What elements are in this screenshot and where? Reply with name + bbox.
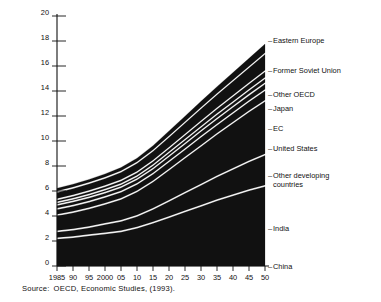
legend-item-label: Other OECD — [273, 90, 315, 99]
x-tick-label: 90 — [69, 273, 77, 282]
legend-item: –India — [268, 224, 289, 233]
x-tick-label: 10 — [133, 273, 141, 282]
y-tick-label: 10 — [41, 133, 49, 142]
y-tick-label: 14 — [41, 83, 49, 92]
source-text: OECD, Economic Studies, (1993). — [54, 284, 175, 293]
x-tick-label: 2000 — [97, 273, 113, 282]
legend-item: –EC — [268, 124, 283, 133]
legend-item-label: Other developing countries — [273, 171, 331, 189]
y-tick-label: 18 — [41, 33, 49, 42]
x-tick-label: 25 — [181, 273, 189, 282]
chart-legend: –Eastern Europe–Former Soviet Union–Othe… — [266, 0, 381, 276]
legend-item: –China — [268, 262, 292, 271]
legend-item-label: Former Soviet Union — [273, 66, 341, 75]
source-note: Source:OECD, Economic Studies, (1993). — [22, 284, 175, 293]
legend-item-label: China — [273, 262, 292, 271]
source-label: Source: — [22, 284, 50, 293]
y-tick-label: 20 — [41, 8, 49, 17]
y-tick-label: 16 — [41, 58, 49, 67]
legend-item: –Former Soviet Union — [268, 66, 341, 75]
legend-item-label: India — [273, 224, 289, 233]
x-tick-label: 45 — [245, 273, 253, 282]
y-tick-label: 8 — [45, 158, 49, 167]
y-tick-label: 0 — [45, 258, 49, 267]
legend-item-label: Eastern Europe — [273, 36, 324, 45]
y-tick-label: 2 — [45, 233, 49, 242]
y-tick-label: 4 — [45, 208, 49, 217]
legend-item: –Other developing countries — [268, 171, 338, 189]
legend-item: –Other OECD — [268, 90, 315, 99]
x-tick-label: 95 — [85, 273, 93, 282]
x-tick-label: 30 — [197, 273, 205, 282]
x-tick-label: 35 — [213, 273, 221, 282]
x-tick-label: 40 — [229, 273, 237, 282]
legend-item-label: Japan — [273, 104, 293, 113]
chart-figure: 0246810121416182019859095200005101520253… — [0, 0, 381, 302]
x-tick-label: 20 — [165, 273, 173, 282]
legend-item: –Eastern Europe — [268, 36, 324, 45]
y-tick-label: 12 — [41, 108, 49, 117]
x-tick-label: 05 — [117, 273, 125, 282]
legend-item-label: United States — [273, 144, 317, 153]
x-tick-label: 1985 — [49, 273, 65, 282]
x-tick-label: 15 — [149, 273, 157, 282]
chart-area-bands — [57, 44, 265, 266]
y-tick-label: 6 — [45, 183, 49, 192]
legend-item-label: EC — [273, 124, 283, 133]
legend-item: –Japan — [268, 104, 293, 113]
legend-item: –United States — [268, 144, 317, 153]
